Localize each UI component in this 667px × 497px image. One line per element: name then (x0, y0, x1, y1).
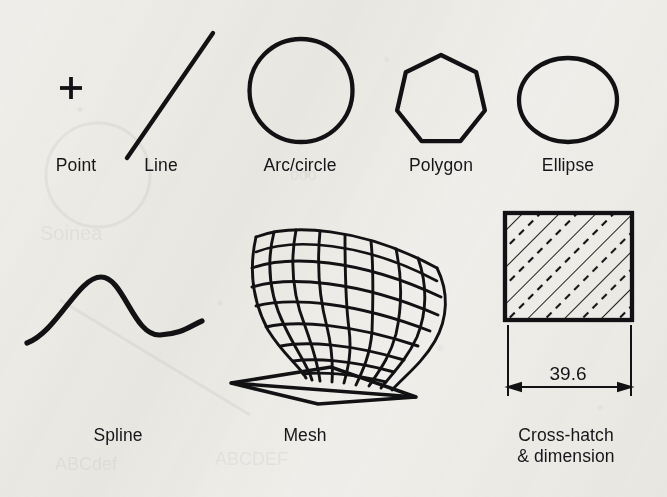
crosshatch-square-icon (505, 213, 632, 320)
label-spline: Spline (93, 425, 142, 445)
dimension-value-text: 39.6 (550, 363, 587, 385)
label-arc-circle: Arc/circle (264, 155, 337, 175)
label-ellipse: Ellipse (542, 155, 594, 175)
circle-icon (250, 39, 353, 142)
polygon-heptagon-icon (397, 55, 485, 141)
arrowhead-left (508, 383, 521, 391)
cad-entities-figure: Soinea ABCdef ABCDEF ooo (0, 0, 667, 497)
ellipse-icon (519, 58, 617, 142)
figure-artwork (0, 0, 667, 497)
dimension-annotation (508, 325, 631, 396)
label-mesh: Mesh (283, 425, 326, 445)
label-crosshatch-line1: Cross-hatch (518, 425, 613, 445)
point-marker-icon (60, 77, 82, 99)
arrowhead-right (618, 383, 631, 391)
label-line: Line (144, 155, 178, 175)
label-point: Point (56, 155, 96, 175)
line-segment-icon (127, 33, 213, 158)
spline-curve-icon (27, 277, 202, 343)
label-crosshatch-line2: & dimension (517, 446, 614, 466)
label-polygon: Polygon (409, 155, 473, 175)
label-crosshatch-dimension: Cross-hatch & dimension (466, 425, 666, 467)
mesh-wireframe-icon (231, 230, 445, 404)
